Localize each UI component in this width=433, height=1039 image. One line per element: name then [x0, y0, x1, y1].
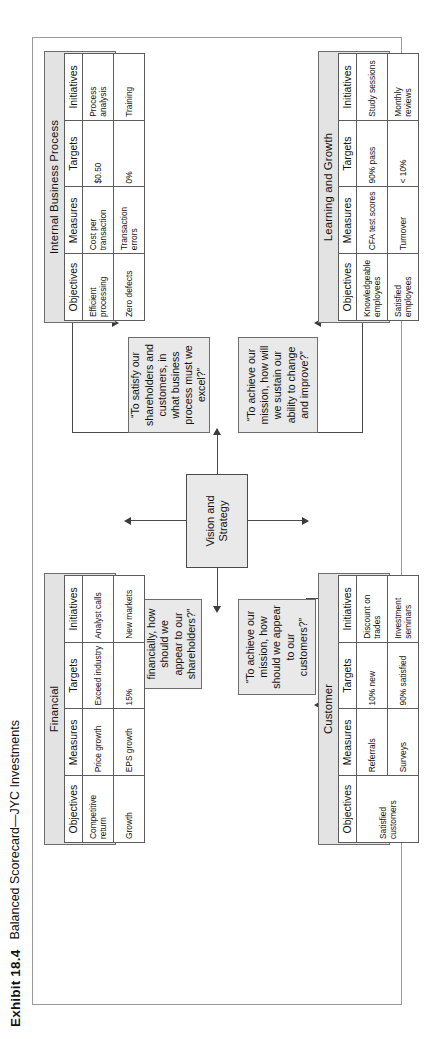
- internal-table: Objectives Measures Targets Initiatives …: [64, 53, 145, 321]
- table-row: Knowledgeable employees CFA test scores …: [357, 54, 388, 321]
- learning-table: Objectives Measures Targets Initiatives …: [338, 53, 419, 321]
- cell-objective: Efficient processing: [83, 254, 114, 321]
- cell-measure: Turnover: [388, 187, 419, 254]
- cell-objective: Growth: [114, 776, 145, 843]
- table-row: Zero defects Transaction errors 0% Train…: [114, 54, 145, 321]
- cell-initiative: Analyst calls: [83, 576, 114, 643]
- perspective-internal-business-process: Internal Business Process Objectives Mea…: [44, 51, 116, 323]
- exhibit-caption: Exhibit 18.4 Balanced Scorecard—JYC Inve…: [0, 0, 30, 1039]
- table-row: Competitive return Price growth Exceed i…: [83, 576, 114, 843]
- col-initiatives: Initiatives: [65, 54, 83, 121]
- col-initiatives: Initiatives: [65, 576, 83, 643]
- internal-title: Internal Business Process: [45, 52, 64, 322]
- col-measures: Measures: [339, 187, 357, 254]
- cell-initiative: Process analysis: [83, 54, 114, 121]
- financial-title: Financial: [45, 574, 64, 844]
- cell-objective: Knowledgeable employees: [357, 254, 388, 321]
- col-objectives: Objectives: [339, 776, 357, 843]
- table-row: Efficient processing Cost per transactio…: [83, 54, 114, 321]
- col-measures: Measures: [339, 709, 357, 776]
- customer-table: Objectives Measures Targets Initiatives …: [338, 575, 419, 843]
- perspective-financial: Financial Objectives Measures Targets In…: [44, 573, 116, 845]
- col-objectives: Objectives: [65, 776, 83, 843]
- table-header-row: Objectives Measures Targets Initiatives: [339, 54, 357, 321]
- perspective-learning-and-growth: Learning and Growth Objectives Measures …: [318, 51, 390, 323]
- arrow-to-financial-quote: [124, 517, 131, 525]
- cell-initiative: Investment seminars: [388, 576, 419, 643]
- arrow-to-customer-quote: [302, 517, 309, 525]
- cell-target: 10% new: [357, 642, 388, 709]
- col-objectives: Objectives: [339, 254, 357, 321]
- learning-title: Learning and Growth: [319, 52, 338, 322]
- cell-initiative: Discount on trades: [357, 576, 388, 643]
- learning-question-text: “To achieve our mission, how will we sus…: [245, 343, 311, 427]
- connector-internal-stub: [72, 432, 128, 433]
- cell-target: < 10%: [388, 120, 419, 187]
- cell-initiative: Monthly reviews: [388, 54, 419, 121]
- col-measures: Measures: [65, 709, 83, 776]
- col-initiatives: Initiatives: [339, 576, 357, 643]
- table-header-row: Objectives Measures Targets Initiatives: [339, 576, 357, 843]
- cell-measure: Price growth: [83, 709, 114, 776]
- cell-target: 90% satisfied: [388, 642, 419, 709]
- exhibit-number: Exhibit 18.4: [8, 950, 23, 1027]
- col-targets: Targets: [65, 120, 83, 187]
- cell-initiative: Training: [114, 54, 145, 121]
- cell-measure: CFA test scores: [357, 187, 388, 254]
- table-row: Growth EPS growth 15% New markets: [114, 576, 145, 843]
- vision-line-2: Strategy: [217, 495, 230, 546]
- connector-learning-h: [362, 323, 363, 433]
- arrow-to-right-quote: [213, 428, 221, 435]
- col-targets: Targets: [339, 642, 357, 709]
- cell-objective: Zero defects: [114, 254, 145, 321]
- perspective-customer: Customer Objectives Measures Targets Ini…: [318, 573, 390, 845]
- connector-internal-h: [72, 323, 73, 433]
- col-targets: Targets: [65, 642, 83, 709]
- connector-vision-up: [128, 520, 186, 521]
- table-row: Satisfied employees Turnover < 10% Month…: [388, 54, 419, 321]
- cell-measure: EPS growth: [114, 709, 145, 776]
- balanced-scorecard-diagram: Vision and Strategy “To succeed financia…: [32, 37, 402, 1005]
- cell-objective: Satisfied customers: [357, 776, 419, 843]
- col-initiatives: Initiatives: [339, 54, 357, 121]
- table-header-row: Objectives Measures Targets Initiatives: [65, 576, 83, 843]
- vision-and-strategy-box: Vision and Strategy: [186, 474, 248, 568]
- cell-measure: Transaction errors: [114, 187, 145, 254]
- customer-question-text: “To achieve our mission, how should we a…: [244, 605, 310, 689]
- cell-target: 15%: [114, 642, 145, 709]
- internal-question-box: “To satisfy our shareholders and custome…: [128, 337, 210, 433]
- cell-target: 90% pass: [357, 120, 388, 187]
- col-targets: Targets: [339, 120, 357, 187]
- financial-table: Objectives Measures Targets Initiatives …: [64, 575, 145, 843]
- learning-question-box: “To achieve our mission, how will we sus…: [238, 337, 318, 433]
- internal-question-text: “To satisfy our shareholders and custome…: [129, 343, 208, 427]
- col-measures: Measures: [65, 187, 83, 254]
- customer-title: Customer: [319, 574, 338, 844]
- cell-target: Exceed industry: [83, 642, 114, 709]
- vision-line-1: Vision and: [204, 495, 217, 546]
- cell-initiative: New markets: [114, 576, 145, 643]
- cell-measure: Cost per transaction: [83, 187, 114, 254]
- cell-target: $0.50: [83, 120, 114, 187]
- table-header-row: Objectives Measures Targets Initiatives: [65, 54, 83, 321]
- customer-question-box: “To achieve our mission, how should we a…: [238, 599, 316, 695]
- cell-measure: Referrals: [357, 709, 388, 776]
- arrow-to-left-quote: [213, 606, 221, 613]
- cell-initiative: Study sessions: [357, 54, 388, 121]
- exhibit-title: Balanced Scorecard—JYC Investments: [8, 720, 22, 940]
- cell-measure: Surveys: [388, 709, 419, 776]
- col-objectives: Objectives: [65, 254, 83, 321]
- cell-target: 0%: [114, 120, 145, 187]
- cell-objective: Competitive return: [83, 776, 114, 843]
- table-row: Satisfied customers Referrals 10% new Di…: [357, 576, 388, 843]
- connector-vision-down: [248, 520, 306, 521]
- cell-objective: Satisfied employees: [388, 254, 419, 321]
